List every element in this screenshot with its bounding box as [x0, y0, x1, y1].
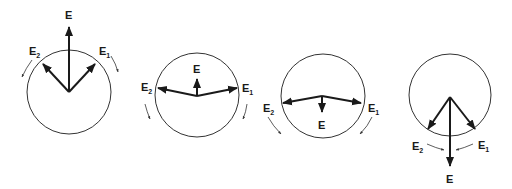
vector-e1: [197, 88, 237, 96]
vector-e1: [450, 97, 475, 129]
vector-e2: [43, 64, 69, 92]
panel-4: E E2 E1: [409, 54, 491, 185]
vector-e1: [322, 96, 361, 103]
label-e2: E2: [29, 45, 40, 59]
label-e: E: [446, 173, 453, 185]
label-e2: E2: [141, 81, 152, 95]
phasor-figure: E E2 E1 E E2 E1 E E2 E1 E E2 E1: [0, 0, 512, 189]
label-e1: E1: [99, 45, 110, 59]
label-e: E: [65, 9, 72, 21]
rotation-arrow-e2: [145, 104, 150, 119]
rotation-arrow-e1: [360, 117, 372, 134]
rotation-arrow-e2: [427, 144, 444, 150]
panel-2: E E2 E1: [141, 53, 253, 137]
label-e: E: [318, 119, 325, 131]
vector-e2: [158, 88, 197, 96]
label-e2: E2: [263, 102, 274, 116]
rotation-arrow-e2: [268, 117, 281, 134]
rotation-arrow-e1: [243, 104, 247, 119]
vector-e2: [283, 96, 322, 103]
vector-e1: [69, 64, 95, 92]
label-e1: E1: [368, 102, 379, 116]
label-e1: E1: [242, 82, 253, 96]
panel-3: E E2 E1: [263, 54, 379, 138]
vector-e2: [428, 97, 450, 129]
rotation-arrow-e1: [456, 144, 473, 150]
label-e1: E1: [478, 139, 489, 153]
label-e: E: [193, 63, 200, 75]
label-e2: E2: [412, 140, 423, 154]
rotation-arrow-e1: [111, 56, 118, 72]
panel-1: E E2 E1: [22, 9, 118, 134]
